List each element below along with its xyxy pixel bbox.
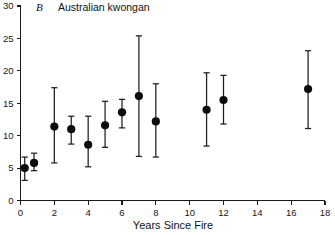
data-point-marker bbox=[101, 121, 109, 129]
data-point-marker bbox=[84, 141, 92, 149]
data-point-group bbox=[84, 116, 92, 167]
data-point-group bbox=[202, 73, 210, 146]
y-tick-group: 051015202530 bbox=[3, 0, 21, 206]
data-point-marker bbox=[152, 117, 160, 125]
x-tick-label: 8 bbox=[153, 207, 158, 218]
x-tick-label: 6 bbox=[119, 207, 124, 218]
x-tick-label: 10 bbox=[184, 207, 195, 218]
data-point-group bbox=[101, 101, 109, 147]
x-tick-label: 12 bbox=[218, 207, 229, 218]
y-tick-label: 25 bbox=[3, 33, 14, 44]
data-point-group bbox=[21, 157, 29, 180]
x-tick-group: 024681012141618 bbox=[18, 201, 330, 218]
data-point-marker bbox=[50, 122, 58, 130]
x-axis-title: Years Since Fire bbox=[133, 219, 213, 231]
y-tick-label: 20 bbox=[3, 65, 14, 76]
data-point-group bbox=[67, 116, 75, 144]
data-series bbox=[21, 36, 313, 181]
data-point-group bbox=[304, 51, 312, 129]
x-tick-label: 18 bbox=[320, 207, 331, 218]
data-point-marker bbox=[135, 92, 143, 100]
data-point-group bbox=[30, 153, 38, 171]
y-tick-label: 30 bbox=[3, 0, 14, 11]
y-axis: 051015202530 bbox=[3, 0, 21, 206]
x-tick-label: 2 bbox=[52, 207, 57, 218]
plot-title-group: B Australian kwongan bbox=[36, 1, 150, 13]
data-point-marker bbox=[202, 106, 210, 114]
x-tick-label: 0 bbox=[18, 207, 23, 218]
x-tick-label: 14 bbox=[252, 207, 263, 218]
data-point-marker bbox=[30, 159, 38, 167]
data-point-group bbox=[135, 36, 143, 157]
panel-letter: B bbox=[36, 1, 43, 13]
y-tick-label: 0 bbox=[8, 195, 13, 206]
data-point-marker bbox=[67, 125, 75, 133]
data-point-group bbox=[219, 75, 227, 124]
data-point-group bbox=[152, 84, 160, 157]
y-tick-label: 5 bbox=[8, 162, 13, 173]
data-point-group bbox=[118, 99, 126, 128]
x-tick-label: 4 bbox=[86, 207, 91, 218]
x-axis: 024681012141618 bbox=[18, 201, 330, 218]
data-point-marker bbox=[219, 96, 227, 104]
panel-title: Australian kwongan bbox=[58, 1, 150, 13]
data-point-marker bbox=[118, 108, 126, 116]
data-point-marker bbox=[21, 164, 29, 172]
y-tick-label: 10 bbox=[3, 130, 14, 141]
scatter-plot: B Australian kwongan 051015202530 024681… bbox=[0, 0, 335, 235]
figure-container: B Australian kwongan 051015202530 024681… bbox=[0, 0, 335, 235]
data-point-marker bbox=[304, 85, 312, 93]
x-tick-label: 16 bbox=[286, 207, 297, 218]
y-tick-label: 15 bbox=[3, 98, 14, 109]
data-point-group bbox=[50, 88, 58, 163]
